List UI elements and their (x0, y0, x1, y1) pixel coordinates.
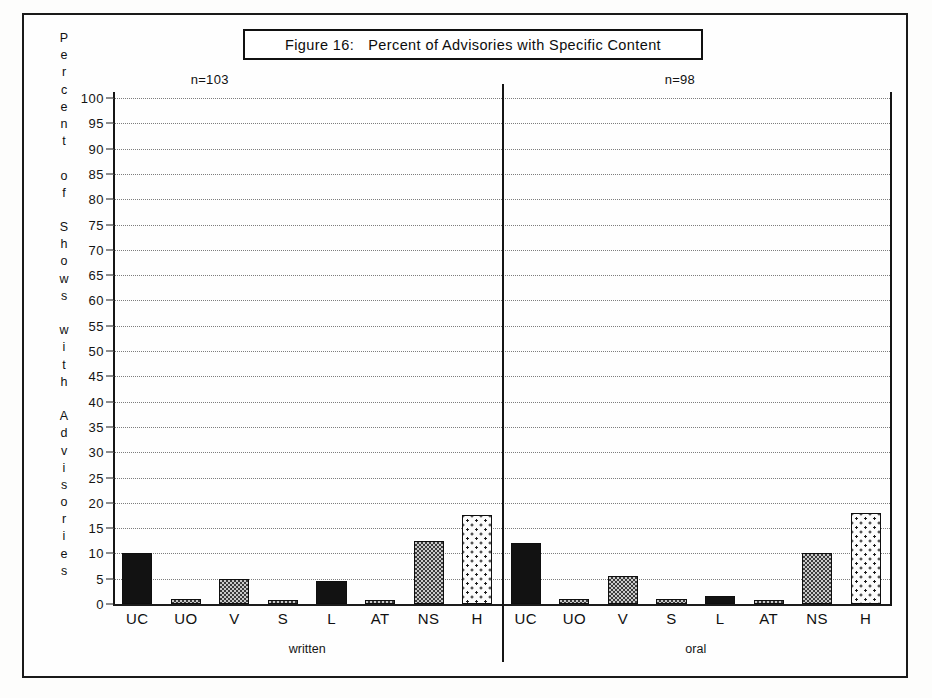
bar-oral-uo (559, 599, 589, 604)
y-tick-label: 100 (81, 91, 113, 106)
y-caption-letter: c (61, 82, 67, 99)
y-tick-label: 95 (89, 116, 113, 131)
y-caption-letter: s (61, 563, 67, 580)
figure-title-box: Figure 16:Percent of Advisories with Spe… (243, 29, 703, 60)
bar-oral-v (608, 576, 638, 604)
plot-right-edge-line (890, 92, 892, 606)
y-tick-label: 35 (89, 419, 113, 434)
x-tick-label-oral-s: S (647, 610, 696, 627)
bar-written-uc (122, 553, 152, 604)
x-tick-label-written-at: AT (356, 610, 405, 627)
y-caption-letter: o (61, 253, 68, 270)
y-tick-label: 45 (89, 369, 113, 384)
group-divider-line (502, 84, 504, 662)
bar-oral-h (851, 513, 881, 604)
y-caption-letter: e (61, 47, 68, 64)
y-caption-letter: w (59, 271, 68, 288)
y-caption-letter: h (61, 374, 68, 391)
y-caption-letter: n (61, 116, 68, 133)
y-tick-label: 85 (89, 166, 113, 181)
y-tick-label: 30 (89, 445, 113, 460)
y-axis-caption: Percent.of.Shows.with.Advisories (56, 30, 72, 580)
y-tick-label: 20 (89, 495, 113, 510)
y-tick-label: 5 (96, 571, 113, 586)
y-caption-letter: i (63, 339, 66, 356)
x-tick-label-oral-l: L (696, 610, 745, 627)
y-tick-label: 10 (89, 546, 113, 561)
bar-oral-s (656, 599, 686, 604)
y-caption-letter: i (63, 460, 66, 477)
y-caption-letter: r (62, 64, 66, 81)
y-caption-letter: w (59, 322, 68, 339)
y-tick-label: 50 (89, 344, 113, 359)
y-tick-label: 25 (89, 470, 113, 485)
y-tick-label: 70 (89, 242, 113, 257)
y-caption-letter: r (62, 511, 66, 528)
y-tick-label: 90 (89, 141, 113, 156)
bar-written-at (365, 600, 395, 604)
plot-area: 0510152025303540455055606570758085909510… (113, 98, 890, 604)
bar-written-v (219, 579, 249, 604)
x-tick-label-written-l: L (307, 610, 356, 627)
bar-oral-ns (802, 553, 832, 604)
y-caption-letter: i (63, 528, 66, 545)
x-tick-label-oral-v: V (599, 610, 648, 627)
y-caption-letter: o (61, 168, 68, 185)
y-caption-letter: s (61, 477, 67, 494)
bar-written-h (462, 515, 492, 604)
y-caption-letter: h (61, 236, 68, 253)
y-caption-letter: t (62, 357, 65, 374)
figure-number-label: Figure 16: (285, 37, 354, 53)
y-tick-label: 65 (89, 268, 113, 283)
bar-written-s (268, 600, 298, 604)
y-caption-letter: s (61, 288, 67, 305)
y-caption-letter: e (61, 99, 68, 116)
y-tick-label: 55 (89, 318, 113, 333)
y-caption-letter: o (61, 494, 68, 511)
y-tick-label: 0 (96, 597, 113, 612)
figure-root: Figure 16:Percent of Advisories with Spe… (0, 0, 932, 698)
group-caption-oral: oral (502, 642, 891, 656)
y-caption-letter: d (61, 425, 68, 442)
y-caption-letter: t (62, 133, 65, 150)
group-caption-written: written (113, 642, 502, 656)
y-caption-letter: v (61, 443, 67, 460)
y-tick-label: 40 (89, 394, 113, 409)
x-tick-label-written-uo: UO (162, 610, 211, 627)
x-tick-label-oral-h: H (841, 610, 890, 627)
bar-written-l (316, 581, 346, 604)
x-tick-label-oral-at: AT (744, 610, 793, 627)
y-caption-letter: S (60, 219, 68, 236)
x-tick-label-written-h: H (453, 610, 502, 627)
y-tick-label: 60 (89, 293, 113, 308)
x-tick-label-written-uc: UC (113, 610, 162, 627)
y-caption-letter: f (62, 185, 65, 202)
sample-size-note-oral: n=98 (665, 72, 695, 87)
y-caption-letter: e (61, 546, 68, 563)
figure-title: Figure 16:Percent of Advisories with Spe… (285, 37, 661, 53)
x-tick-label-oral-uo: UO (550, 610, 599, 627)
sample-size-note-written: n=103 (191, 72, 229, 87)
y-tick-label: 80 (89, 192, 113, 207)
y-tick-label: 75 (89, 217, 113, 232)
bar-written-uo (171, 599, 201, 604)
x-tick-label-written-v: V (210, 610, 259, 627)
y-tick-label: 15 (89, 521, 113, 536)
x-tick-label-written-s: S (259, 610, 308, 627)
bar-oral-uc (511, 543, 541, 604)
bar-oral-l (705, 596, 735, 604)
bar-oral-at (754, 600, 784, 604)
x-tick-label-oral-ns: NS (793, 610, 842, 627)
bar-written-ns (414, 541, 444, 604)
figure-title-text: Percent of Advisories with Specific Cont… (368, 37, 661, 53)
x-tick-label-oral-uc: UC (502, 610, 551, 627)
y-caption-letter: A (60, 408, 68, 425)
x-tick-label-written-ns: NS (404, 610, 453, 627)
y-caption-letter: P (60, 30, 68, 47)
